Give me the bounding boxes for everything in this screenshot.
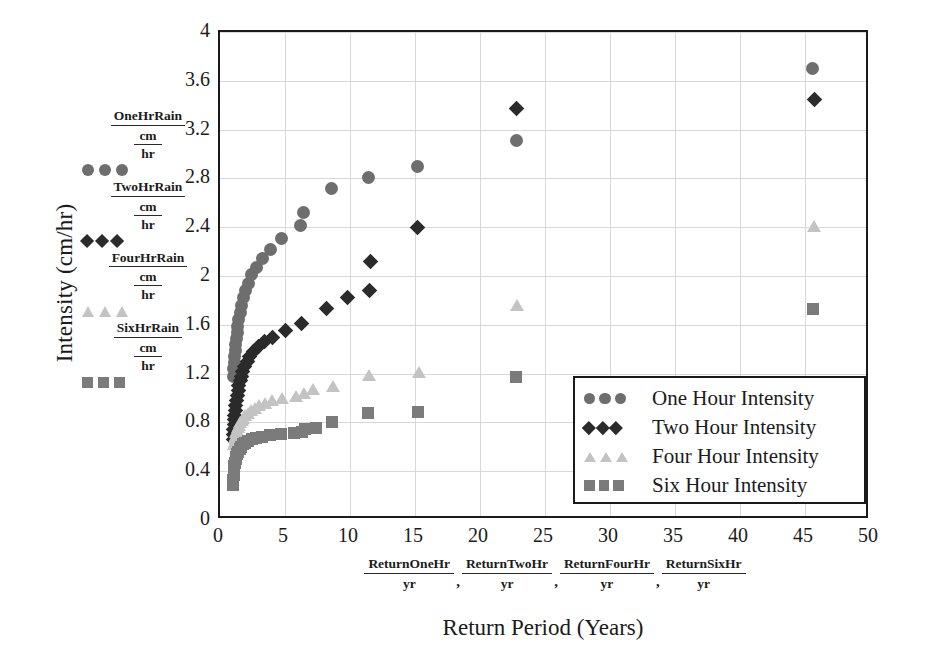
data-point	[297, 206, 310, 219]
triangle-marker-icon	[616, 452, 628, 462]
x-axis-tick-label: 35	[663, 524, 683, 547]
fraction-numerator: ReturnOneHr	[364, 556, 454, 574]
y-axis-tick-label: 0.8	[185, 409, 210, 432]
data-point	[294, 219, 307, 232]
data-point	[362, 407, 374, 419]
data-point	[806, 91, 822, 107]
square-marker-icon	[599, 480, 610, 491]
square-marker-icon	[584, 480, 595, 491]
circle-marker-icon	[615, 393, 626, 404]
data-point	[299, 423, 311, 435]
data-point	[362, 283, 378, 299]
data-point	[294, 316, 310, 332]
circle-marker-icon	[116, 164, 128, 176]
x-axis-tick-label: 5	[278, 524, 288, 547]
series-legend-item: Two Hour Intensity	[584, 413, 855, 442]
x-axis-title: Return Period (Years)	[218, 615, 868, 641]
fraction-numerator: ReturnTwoHr	[462, 556, 552, 574]
x-axis-tick-label: 40	[728, 524, 748, 547]
data-point	[363, 254, 379, 270]
circle-marker-icon	[82, 164, 94, 176]
triangle-marker-icon	[584, 452, 596, 462]
fraction-separator: ,	[456, 573, 460, 592]
x-axis-tick-label: 25	[533, 524, 553, 547]
square-marker-icon	[114, 377, 125, 388]
x-axis-tick-label: 10	[338, 524, 358, 547]
data-point	[275, 232, 288, 245]
data-point	[325, 182, 338, 195]
data-point	[310, 422, 322, 434]
series-legend-label: One Hour Intensity	[652, 386, 814, 411]
series-legend: One Hour IntensityTwo Hour IntensityFour…	[573, 376, 866, 504]
x-axis-tick-label: 15	[403, 524, 423, 547]
fraction-numerator: ReturnSixHr	[662, 556, 746, 574]
series-legend-marker-group	[584, 423, 646, 433]
series-legend-marker-group	[584, 480, 646, 491]
data-point	[275, 392, 289, 404]
triangle-marker-icon	[99, 306, 111, 317]
data-point	[410, 219, 426, 235]
data-point	[412, 406, 424, 418]
x-axis-tick-label: 50	[858, 524, 878, 547]
y-axis-tick-label: 3.2	[185, 116, 210, 139]
y-axis-tick-label: 4	[200, 19, 210, 42]
square-marker-icon	[98, 377, 109, 388]
data-point	[275, 428, 287, 440]
data-point	[319, 301, 335, 317]
y-axis-tick-label: 0	[200, 507, 210, 530]
data-point	[362, 171, 375, 184]
circle-marker-icon	[599, 393, 610, 404]
series-legend-marker-group	[584, 393, 646, 404]
x-variable-fraction: ReturnFourHryr	[560, 556, 654, 592]
diamond-marker-icon	[596, 421, 610, 435]
series-legend-item: One Hour Intensity	[584, 384, 855, 413]
triangle-marker-icon	[82, 306, 94, 317]
circle-marker-icon	[584, 393, 595, 404]
data-point	[510, 134, 523, 147]
data-point	[806, 62, 819, 75]
data-point	[264, 243, 277, 256]
series-legend-marker-group	[584, 452, 646, 462]
fraction-denominator: yr	[560, 574, 654, 592]
x-axis-tick-labels: 05101520253035404550	[218, 524, 868, 554]
y-axis-tick-label: 0.4	[185, 458, 210, 481]
diamond-marker-icon	[110, 234, 124, 248]
x-axis-tick-label: 0	[213, 524, 223, 547]
y-axis-tick-labels: 00.40.81.21.622.42.83.23.64	[150, 30, 210, 518]
x-variable-fraction: ReturnTwoHryr	[462, 556, 552, 592]
x-variable-legend: ReturnOneHryr,ReturnTwoHryr,ReturnFourHr…	[295, 556, 815, 592]
y-axis-tick-label: 2.8	[185, 165, 210, 188]
data-point	[326, 380, 340, 392]
fraction-numerator: ReturnFourHr	[560, 556, 654, 574]
data-point	[510, 299, 524, 311]
circle-marker-icon	[99, 164, 111, 176]
square-marker-icon	[82, 377, 93, 388]
fraction-denominator: yr	[462, 574, 552, 592]
y-axis-tick-label: 1.6	[185, 311, 210, 334]
series-legend-label: Two Hour Intensity	[652, 415, 816, 440]
data-point	[411, 160, 424, 173]
y-axis-tick-label: 1.2	[185, 360, 210, 383]
diamond-marker-icon	[95, 234, 109, 248]
data-point	[807, 303, 819, 315]
fraction-denominator: yr	[364, 574, 454, 592]
y-axis-tick-label: 2.4	[185, 214, 210, 237]
diamond-marker-icon	[582, 421, 596, 435]
series-legend-label: Six Hour Intensity	[652, 473, 807, 498]
data-point	[326, 416, 338, 428]
data-point	[807, 220, 821, 232]
x-variable-fraction: ReturnOneHryr	[364, 556, 454, 592]
data-point	[412, 366, 426, 378]
diamond-marker-icon	[80, 234, 94, 248]
data-point	[340, 290, 356, 306]
x-axis-tick-label: 45	[793, 524, 813, 547]
data-point	[306, 383, 320, 395]
series-legend-item: Four Hour Intensity	[584, 442, 855, 471]
x-axis-tick-label: 20	[468, 524, 488, 547]
triangle-marker-icon	[116, 306, 128, 317]
series-legend-label: Four Hour Intensity	[652, 444, 819, 469]
y-axis-tick-label: 2	[200, 263, 210, 286]
x-variable-fraction: ReturnSixHryr	[662, 556, 746, 592]
triangle-marker-icon	[600, 452, 612, 462]
fraction-separator: ,	[656, 573, 660, 592]
